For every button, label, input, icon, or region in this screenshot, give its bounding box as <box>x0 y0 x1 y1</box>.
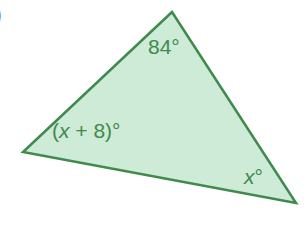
angle-left-suffix: + 8)° <box>70 119 121 142</box>
angle-right-variable: x <box>244 165 255 188</box>
triangle-figure: ) 84° (x + 8)° x° <box>0 0 307 226</box>
angle-left-prefix: ( <box>52 119 59 142</box>
angle-left-variable: x <box>59 119 70 142</box>
angle-label-top: 84° <box>148 36 180 57</box>
angle-label-left: (x + 8)° <box>52 120 121 141</box>
angle-top-text: 84° <box>148 35 180 58</box>
triangle-shape <box>0 0 307 226</box>
angle-label-right: x° <box>244 166 263 187</box>
angle-right-suffix: ° <box>255 165 263 188</box>
